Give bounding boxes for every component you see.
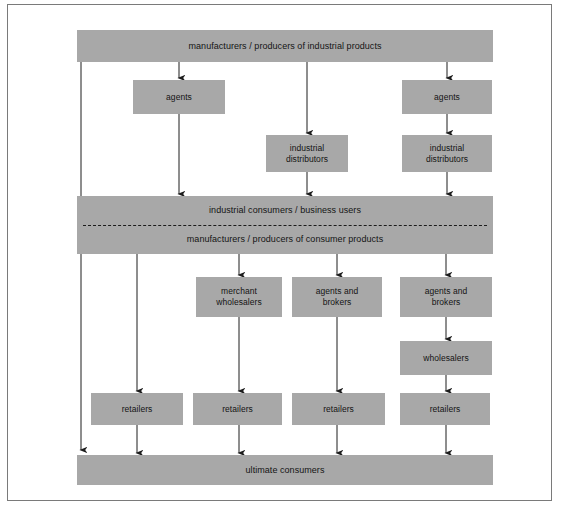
node-industrial-distributors-right-label: industrial distributors xyxy=(426,143,468,165)
band-dashed-divider xyxy=(83,225,487,226)
node-retailers-1: retailers xyxy=(91,393,183,425)
node-retailers-1-label: retailers xyxy=(122,404,153,415)
node-agents-right-label: agents xyxy=(434,92,460,103)
node-merchant-wholesalers-label: merchant wholesalers xyxy=(216,286,261,308)
node-agents-and-brokers-mid: agents and brokers xyxy=(292,277,382,317)
node-agents-right: agents xyxy=(402,80,492,114)
node-consumers-producers-band-label-bottom: manufacturers / producers of consumer pr… xyxy=(77,225,493,254)
node-agents-left-label: agents xyxy=(166,92,192,103)
node-merchant-wholesalers: merchant wholesalers xyxy=(196,277,282,317)
node-industrial-distributors-mid: industrial distributors xyxy=(266,135,348,172)
connector-layer xyxy=(0,0,562,510)
node-consumers-producers-band: industrial consumers / business usersman… xyxy=(77,196,493,254)
node-agents-and-brokers-mid-label: agents and brokers xyxy=(316,286,359,308)
node-retailers-4: retailers xyxy=(400,393,490,425)
node-retailers-2: retailers xyxy=(193,393,282,425)
node-industrial-producers-label: manufacturers / producers of industrial … xyxy=(189,41,382,52)
node-industrial-distributors-right: industrial distributors xyxy=(402,135,492,172)
node-agents-left: agents xyxy=(133,80,225,114)
node-wholesalers-label: wholesalers xyxy=(423,353,468,364)
node-agents-and-brokers-right: agents and brokers xyxy=(400,277,492,317)
diagram-root: manufacturers / producers of industrial … xyxy=(0,0,562,510)
node-ultimate-consumers: ultimate consumers xyxy=(77,455,493,485)
node-retailers-3: retailers xyxy=(292,393,385,425)
node-retailers-4-label: retailers xyxy=(430,404,461,415)
node-retailers-3-label: retailers xyxy=(323,404,354,415)
node-industrial-distributors-mid-label: industrial distributors xyxy=(286,143,328,165)
node-agents-and-brokers-right-label: agents and brokers xyxy=(425,286,468,308)
node-wholesalers: wholesalers xyxy=(400,341,492,375)
node-ultimate-consumers-label: ultimate consumers xyxy=(246,465,325,476)
node-retailers-2-label: retailers xyxy=(222,404,253,415)
node-consumers-producers-band-label-top: industrial consumers / business users xyxy=(77,196,493,225)
node-industrial-producers: manufacturers / producers of industrial … xyxy=(77,30,493,62)
